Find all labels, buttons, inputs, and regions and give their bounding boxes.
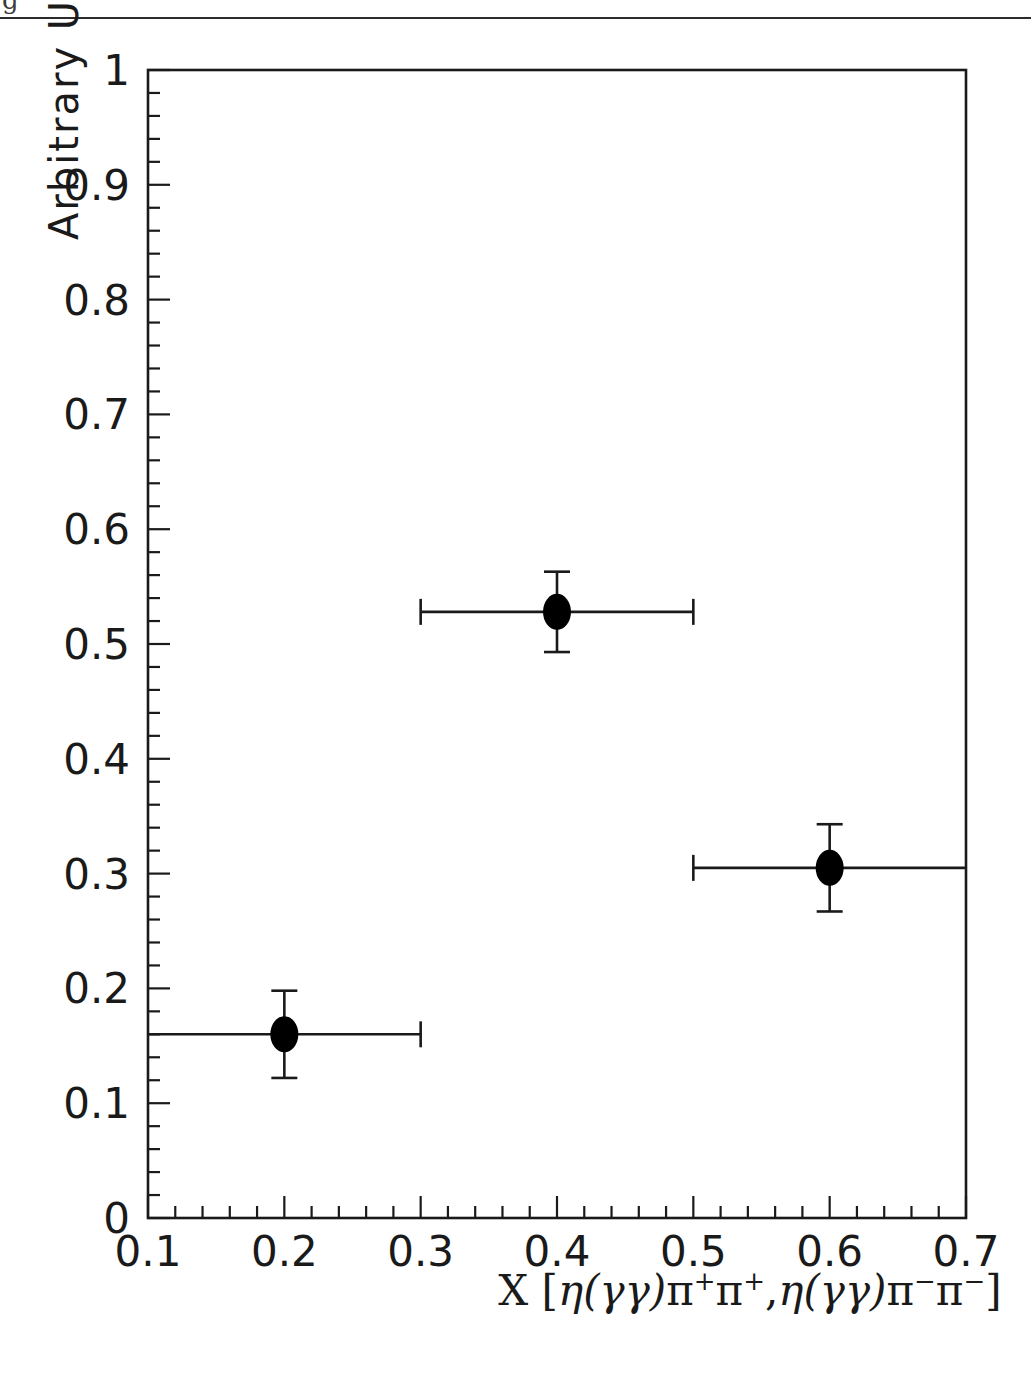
- scatter-plot-figure: 00.10.20.30.40.50.60.70.80.91 0.10.20.30…: [0, 0, 1031, 1381]
- x-tick-label: 0.1: [115, 1227, 182, 1276]
- y-tick-label: 0.7: [63, 390, 130, 439]
- data-point-group: [421, 572, 694, 652]
- figure-page: g 00.10.20.30.40.50.60.70.80.91 0.10.20.…: [0, 0, 1031, 1381]
- x-tick-label: 0.2: [251, 1227, 318, 1276]
- x-title-eta-2: η: [778, 1266, 803, 1315]
- x-title-pi-4: π: [936, 1266, 964, 1315]
- x-title-suffix: ]: [985, 1266, 1001, 1315]
- x-title-pi-2: π: [716, 1266, 744, 1315]
- x-title-pi-3: π: [886, 1266, 914, 1315]
- y-tick-label: 0.5: [63, 620, 130, 669]
- x-title-charge-1: +: [694, 1266, 716, 1296]
- data-point-group: [693, 824, 966, 911]
- y-tick-label: 0.3: [63, 850, 130, 899]
- y-tick-label: 0.1: [63, 1079, 130, 1128]
- x-title-charge-2: +: [743, 1266, 765, 1296]
- x-tick-label: 0.3: [387, 1227, 454, 1276]
- y-tick-label: 0.6: [63, 505, 130, 554]
- x-title-charge-4: −: [963, 1266, 985, 1296]
- y-tick-label: 0.4: [63, 735, 130, 784]
- y-tick-label: 1: [103, 46, 130, 95]
- y-tick-label: 0.8: [63, 276, 130, 325]
- x-title-gammagamma-2: (γγ): [803, 1266, 886, 1315]
- x-title-prefix: X [: [498, 1266, 558, 1315]
- y-tick-label: 0.2: [63, 964, 130, 1013]
- x-axis-major-ticks: [148, 1196, 966, 1218]
- x-title-eta-1: η: [558, 1266, 583, 1315]
- x-title-comma: ,: [765, 1266, 778, 1315]
- data-point-marker: [543, 594, 571, 630]
- data-point-group: [148, 991, 421, 1078]
- data-point-marker: [816, 850, 844, 886]
- data-point-marker: [270, 1016, 298, 1052]
- y-axis-title: Arbitrary Units: [41, 0, 87, 240]
- y-axis-major-ticks: [148, 70, 170, 1218]
- x-title-charge-3: −: [914, 1266, 936, 1296]
- x-title-pi-1: π: [666, 1266, 694, 1315]
- x-title-gammagamma-1: (γγ): [583, 1266, 666, 1315]
- data-series-errorbars: [148, 572, 966, 1078]
- x-axis-title: X [η(γγ)π+π+,η(γγ)π−π−]: [498, 1266, 1001, 1315]
